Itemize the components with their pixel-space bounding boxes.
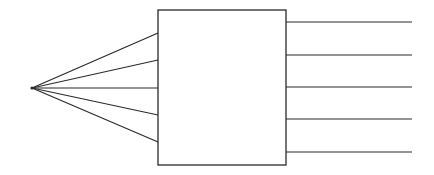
input-line	[32, 88, 158, 115]
diagram-canvas	[0, 0, 434, 175]
input-lines	[32, 33, 158, 142]
input-line	[32, 88, 158, 142]
process-box	[158, 10, 286, 165]
input-line	[32, 60, 158, 88]
input-line	[32, 33, 158, 88]
output-lines	[286, 22, 412, 152]
source-point	[30, 86, 33, 89]
